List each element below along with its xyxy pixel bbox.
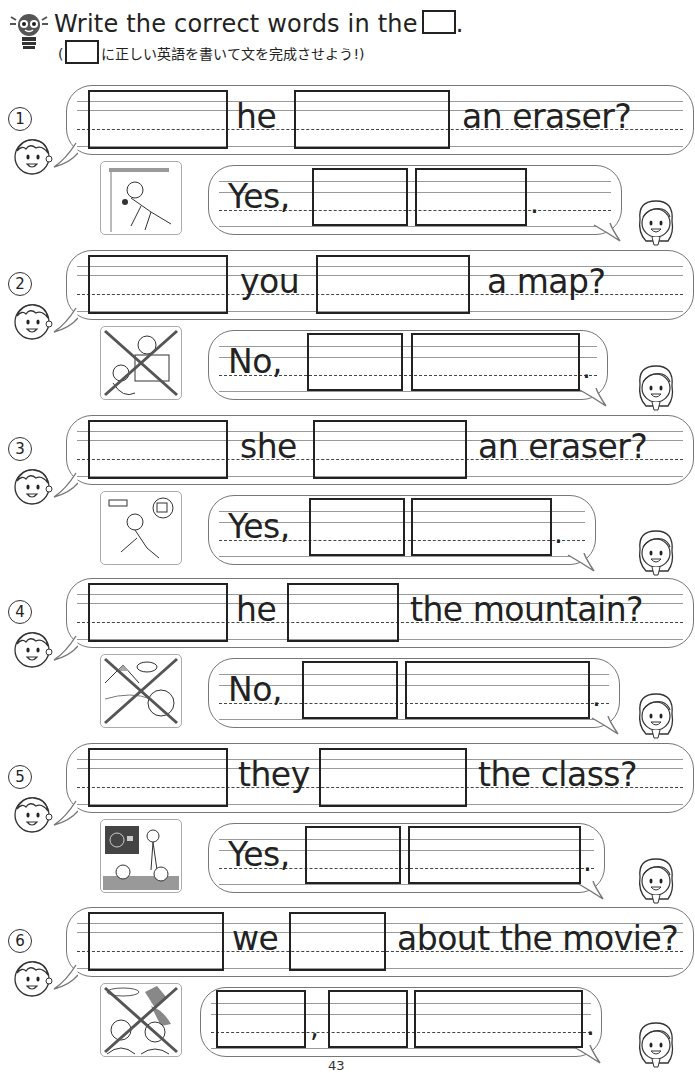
question-answer-box-1[interactable] — [88, 912, 224, 971]
scene-picture-boy-and-mountain — [100, 654, 182, 728]
question-answer-box-1[interactable] — [88, 255, 228, 314]
guide-line-bottom — [219, 226, 611, 227]
exercise-number: 2 — [8, 272, 32, 296]
answer-lead-word: Yes, — [228, 838, 290, 871]
japanese-instruction: に正しい英語を書いて文を完成させよう!) — [101, 46, 364, 62]
boy-face-icon — [8, 791, 54, 837]
girl-face-icon — [632, 690, 680, 740]
answer-box-1[interactable] — [312, 168, 408, 226]
page-number: 43 — [328, 1058, 345, 1073]
answer-period: . — [582, 352, 591, 385]
worksheet-header: Write the correct words in the. (に正しい英語を… — [0, 0, 695, 60]
question-answer-box-2[interactable] — [294, 90, 450, 149]
scene-picture-classroom-scene — [100, 819, 182, 893]
subtitle-paren: ( — [58, 46, 63, 62]
bubble-tail — [566, 553, 596, 573]
answer-lead-word: No, — [228, 345, 282, 378]
answer-box-2[interactable] — [328, 990, 408, 1048]
answer-period: . — [592, 680, 601, 713]
bubble-tail — [578, 388, 608, 408]
question-answer-box-2[interactable] — [316, 255, 470, 314]
question-answer-box-1[interactable] — [88, 748, 228, 807]
scene-picture-girl-looking-under-table — [100, 491, 182, 565]
girl-face-icon — [632, 527, 680, 577]
bubble-tail — [52, 306, 78, 336]
answer-period: . — [530, 187, 539, 220]
answer-lead-word: Yes, — [228, 510, 290, 543]
answer-box-1[interactable] — [302, 661, 398, 719]
answer-box-2[interactable] — [415, 168, 527, 226]
bubble-tail — [575, 881, 605, 901]
answer-period: . — [586, 1009, 595, 1042]
answer-box-1[interactable] — [307, 333, 403, 391]
answer-box-2[interactable] — [408, 826, 581, 884]
question-answer-box-2[interactable] — [313, 420, 467, 479]
question-word-1: he — [236, 593, 276, 626]
exercise-1: 1hean eraser?Yes,. — [0, 85, 695, 250]
question-word-2: the mountain? — [410, 593, 643, 626]
answer-lead-word: Yes, — [228, 180, 290, 213]
scene-picture-boy-under-desk-with-eraser — [100, 161, 182, 235]
exercise-6: 6weabout the movie?,. — [0, 907, 695, 1072]
boy-face-icon — [8, 626, 54, 672]
boy-face-icon — [8, 463, 54, 509]
exercise-number: 3 — [8, 437, 32, 461]
boy-face-icon — [8, 133, 54, 179]
question-word-1: they — [238, 758, 310, 791]
exercise-5: 5theythe class?Yes,. — [0, 743, 695, 908]
question-word-1: she — [240, 430, 297, 463]
guide-line-bottom — [211, 1048, 591, 1049]
answer-box-2[interactable] — [411, 333, 580, 391]
answer-box-1[interactable] — [216, 990, 306, 1048]
exercise-2: 2youa map?No,. — [0, 250, 695, 415]
instruction-title: Write the correct words in the. — [54, 10, 464, 38]
bubble-tail — [52, 799, 78, 829]
question-word-1: you — [240, 265, 299, 298]
boy-face-icon — [8, 955, 54, 1001]
exercise-number: 4 — [8, 600, 32, 624]
answer-lead-word: No, — [228, 673, 282, 706]
question-word-2: about the movie? — [397, 922, 678, 955]
instruction-text: Write the correct words in the — [54, 10, 418, 38]
robot-mascot-icon — [8, 10, 50, 52]
guide-line-bottom — [219, 884, 594, 885]
question-word-1: he — [236, 100, 276, 133]
question-word-2: an eraser? — [462, 100, 631, 133]
question-answer-box-1[interactable] — [88, 420, 228, 479]
title-period: . — [456, 10, 464, 38]
bubble-tail — [590, 716, 620, 736]
question-answer-box-1[interactable] — [88, 90, 228, 149]
answer-box-sample-small — [65, 40, 99, 64]
question-word-1: we — [232, 922, 278, 955]
guide-line-bottom — [219, 391, 597, 392]
question-answer-box-2[interactable] — [319, 748, 467, 807]
question-word-2: an eraser? — [478, 430, 647, 463]
answer-box-1[interactable] — [309, 498, 405, 556]
girl-face-icon — [632, 197, 680, 247]
scene-picture-kids-at-movie — [100, 983, 182, 1057]
answer-box-1[interactable] — [305, 826, 401, 884]
boy-face-icon — [8, 298, 54, 344]
bubble-tail — [52, 634, 78, 664]
answer-box-sample — [422, 10, 456, 34]
exercise-number: 5 — [8, 765, 32, 789]
bubble-tail — [52, 471, 78, 501]
guide-line-bottom — [219, 719, 609, 720]
exercise-number: 6 — [8, 929, 32, 953]
question-answer-box-2[interactable] — [287, 583, 399, 642]
exercise-number: 1 — [8, 107, 32, 131]
question-answer-box-1[interactable] — [88, 583, 228, 642]
answer-box-2[interactable] — [405, 661, 590, 719]
answer-box-2[interactable] — [411, 498, 552, 556]
question-word-2: a map? — [487, 265, 606, 298]
exercise-4: 4hethe mountain?No,. — [0, 578, 695, 743]
question-answer-box-2[interactable] — [289, 912, 386, 971]
answer-comma: , — [310, 1011, 319, 1044]
girl-face-icon — [632, 362, 680, 412]
bubble-tail — [592, 223, 622, 243]
exercise-3: 3shean eraser?Yes,. — [0, 415, 695, 580]
answer-box-3[interactable] — [414, 990, 583, 1048]
answer-period: . — [583, 845, 592, 878]
girl-face-icon — [632, 1019, 680, 1069]
guide-line-bottom — [219, 556, 585, 557]
